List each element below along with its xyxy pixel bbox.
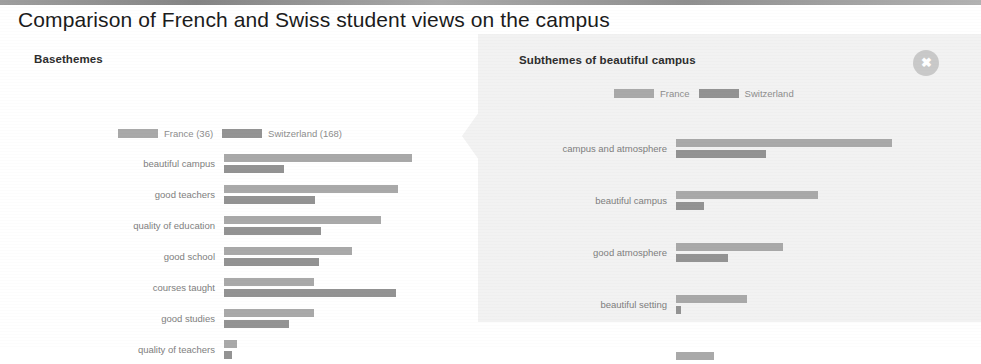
chart-row-label: good atmosphere xyxy=(478,247,676,258)
bar-france[interactable] xyxy=(676,139,892,147)
legend-item-switzerland: Switzerland xyxy=(699,88,794,99)
legend-swatch-switzerland xyxy=(699,89,739,98)
chart-row-label: good studies xyxy=(0,313,224,324)
chart-row-label: quality of teachers xyxy=(0,344,224,355)
chart-row-label: quality of education xyxy=(0,220,224,231)
bar-france[interactable] xyxy=(224,278,314,286)
chart-row[interactable]: campus and atmosphere xyxy=(478,122,892,174)
bar-switzerland[interactable] xyxy=(224,196,315,204)
chart-row-bars xyxy=(676,191,818,210)
page-title: Comparison of French and Swiss student v… xyxy=(18,8,610,32)
legend-label-france: France (36) xyxy=(164,128,213,139)
legend-swatch-switzerland xyxy=(222,129,262,138)
chart-row[interactable]: beautiful campus xyxy=(478,174,892,226)
legend-label-france: France xyxy=(660,88,690,99)
bar-france[interactable] xyxy=(224,185,398,193)
chart-row-label: good school xyxy=(0,251,224,262)
close-icon[interactable]: ✖ xyxy=(913,50,939,76)
chart-row[interactable]: good atmosphere xyxy=(478,226,892,278)
chart-row-label: campus and atmosphere xyxy=(478,143,676,154)
bar-france[interactable] xyxy=(676,243,783,251)
chart-row[interactable]: beautiful campus xyxy=(0,148,412,179)
basethemes-chart: Basethemes France (36) Switzerland (168)… xyxy=(0,40,470,347)
chart-row-bars xyxy=(224,278,396,297)
legend-label-switzerland: Switzerland (168) xyxy=(268,128,342,139)
chart-row-bars xyxy=(676,352,714,360)
bar-france[interactable] xyxy=(224,247,352,255)
bar-switzerland[interactable] xyxy=(224,227,321,235)
close-icon-glyph: ✖ xyxy=(913,50,939,76)
chart-row[interactable]: good school xyxy=(0,241,412,272)
bar-switzerland[interactable] xyxy=(224,289,396,297)
bar-france[interactable] xyxy=(224,216,381,224)
chart-row[interactable]: courses taught xyxy=(0,272,412,303)
panel-pointer-arrow xyxy=(462,112,479,160)
chart-row[interactable]: good teachers xyxy=(0,179,412,210)
legend-label-switzerland: Switzerland xyxy=(745,88,794,99)
legend-swatch-france xyxy=(614,89,654,98)
bar-france[interactable] xyxy=(676,352,714,360)
subthemes-legend: France Switzerland xyxy=(614,88,794,99)
chart-row-bars xyxy=(224,154,412,173)
bar-switzerland[interactable] xyxy=(676,254,728,262)
basethemes-rows: beautiful campusgood teachersquality of … xyxy=(0,148,412,364)
bar-switzerland[interactable] xyxy=(224,258,319,266)
chart-row-label: beautiful campus xyxy=(478,195,676,206)
chart-row-bars xyxy=(676,139,892,158)
bar-switzerland[interactable] xyxy=(676,202,704,210)
legend-item-switzerland: Switzerland (168) xyxy=(222,128,342,139)
chart-row-bars xyxy=(224,340,237,359)
scan-top-edge xyxy=(0,0,981,5)
chart-row-bars xyxy=(224,216,381,235)
chart-row-bars xyxy=(676,295,747,314)
chart-row-label: courses taught xyxy=(0,282,224,293)
basethemes-heading: Basethemes xyxy=(34,53,103,65)
chart-row-label: beautiful campus xyxy=(0,158,224,169)
legend-swatch-france xyxy=(118,129,158,138)
bar-france[interactable] xyxy=(676,191,818,199)
bar-france[interactable] xyxy=(676,295,747,303)
bar-france[interactable] xyxy=(224,154,412,162)
basethemes-legend: France (36) Switzerland (168) xyxy=(118,128,342,139)
chart-row-bars xyxy=(224,309,314,328)
chart-row-bars xyxy=(224,247,352,266)
chart-row[interactable]: quality of teachers xyxy=(0,334,412,364)
chart-row-label: beautiful setting xyxy=(478,299,676,310)
bar-switzerland[interactable] xyxy=(676,306,681,314)
chart-row[interactable]: good studies xyxy=(0,303,412,334)
legend-item-france: France xyxy=(614,88,690,99)
bar-switzerland[interactable] xyxy=(224,351,232,359)
chart-row-truncated[interactable] xyxy=(478,330,892,364)
subthemes-heading: Subthemes of beautiful campus xyxy=(519,54,696,66)
chart-row-label: good teachers xyxy=(0,189,224,200)
bar-france[interactable] xyxy=(224,340,237,348)
bar-france[interactable] xyxy=(224,309,314,317)
bar-switzerland[interactable] xyxy=(224,320,289,328)
subthemes-rows: campus and atmospherebeautiful campusgoo… xyxy=(478,122,892,364)
legend-item-france: France (36) xyxy=(118,128,213,139)
chart-row-bars xyxy=(676,243,783,262)
chart-row[interactable]: quality of education xyxy=(0,210,412,241)
chart-row-bars xyxy=(224,185,398,204)
bar-gap xyxy=(676,303,747,306)
bar-switzerland[interactable] xyxy=(676,150,766,158)
chart-row[interactable]: beautiful setting xyxy=(478,278,892,330)
bar-switzerland[interactable] xyxy=(224,165,284,173)
